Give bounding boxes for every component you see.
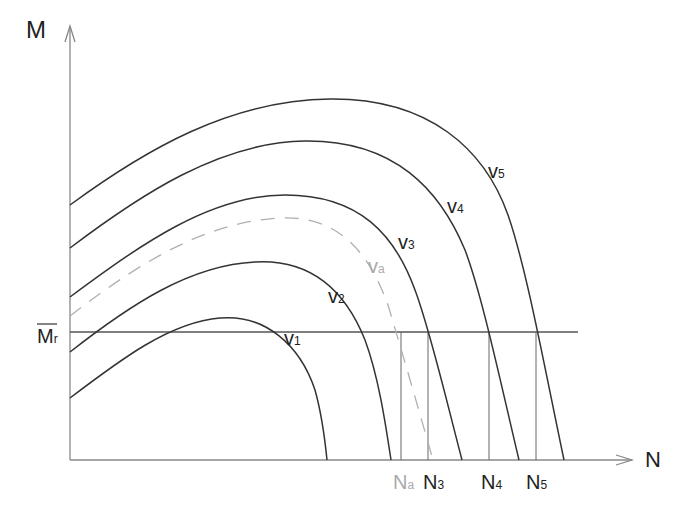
label-n4: N4: [481, 471, 502, 493]
label-v2: v2: [328, 285, 345, 307]
label-va: va: [368, 255, 385, 277]
label-n5: N5: [526, 471, 547, 493]
label-na: Na: [393, 471, 414, 493]
curve-v5: [70, 99, 564, 460]
label-v5: v5: [488, 160, 505, 182]
y-axis-label: M: [26, 16, 46, 43]
curve-va: [70, 218, 433, 460]
diagram-canvas: M N Mr v1 v2 va v3 v4 v5 Na N3 N4 N5: [0, 0, 687, 521]
label-v1: v1: [284, 327, 301, 349]
label-n3: N3: [423, 471, 444, 493]
label-v3: v3: [398, 231, 415, 253]
curve-v4: [70, 141, 519, 460]
mr-label: Mr: [37, 325, 58, 347]
x-axis-label: N: [645, 447, 661, 472]
label-v4: v4: [447, 195, 464, 217]
